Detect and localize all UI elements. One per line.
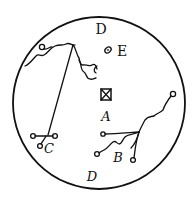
label-d-bottom: D [86, 169, 98, 184]
label-b: B [112, 150, 123, 165]
label-c: C [44, 141, 54, 156]
field-circle [13, 17, 185, 189]
label-e: E [117, 43, 127, 59]
object-e-oval [104, 46, 113, 54]
organism-upper-left [25, 43, 97, 135]
diagram: D E C A B D [0, 0, 196, 200]
organism-b [95, 91, 176, 162]
label-a: A [100, 109, 110, 124]
object-a-square [101, 89, 111, 100]
label-d-top: D [95, 21, 106, 37]
